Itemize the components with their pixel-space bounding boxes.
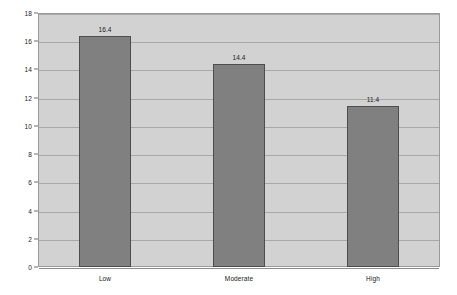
y-tick-label: 4 — [28, 207, 32, 214]
bar-group: 16.4 — [79, 13, 131, 267]
y-axis: 024681012141618 — [0, 13, 38, 267]
bar-value-label: 11.4 — [367, 96, 380, 103]
y-tick-label: 0 — [28, 264, 32, 271]
x-axis-label: High — [366, 275, 380, 282]
y-tick-label: 2 — [28, 235, 32, 242]
bars-layer: 16.414.411.4 — [38, 13, 440, 267]
bar[interactable] — [79, 36, 131, 267]
y-tick-label: 6 — [28, 179, 32, 186]
y-tick-label: 10 — [25, 122, 32, 129]
bar[interactable] — [213, 64, 265, 267]
x-axis: LowModerateHigh — [38, 268, 440, 292]
bar-chart: 024681012141618 16.414.411.4 LowModerate… — [0, 0, 457, 295]
bar-value-label: 14.4 — [232, 54, 245, 61]
y-tick-label: 12 — [25, 94, 32, 101]
y-tick-label: 14 — [25, 66, 32, 73]
bar-value-label: 16.4 — [98, 26, 111, 33]
bar[interactable] — [347, 106, 399, 267]
x-axis-label: Moderate — [225, 275, 253, 282]
x-axis-label: Low — [99, 275, 111, 282]
y-tick-label: 16 — [25, 38, 32, 45]
y-tick-label: 8 — [28, 151, 32, 158]
bar-group: 14.4 — [213, 13, 265, 267]
y-tick-label: 18 — [25, 10, 32, 17]
bar-group: 11.4 — [347, 13, 399, 267]
